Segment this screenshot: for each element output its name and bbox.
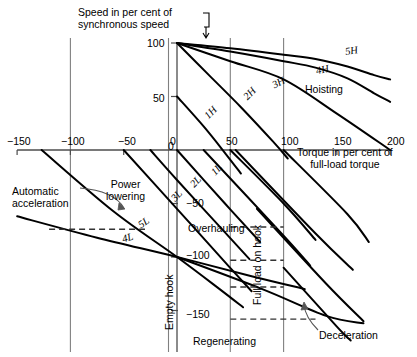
speed-torque-diagram: Speed in per cent of synchronous speed T… [0, 0, 417, 357]
annotation-hoisting: Hoisting [305, 83, 343, 95]
y-tick-label-50: 50 [153, 92, 165, 104]
x-tick-label-neg100: −100 [61, 135, 85, 147]
annotation-automatic-acceleration-line2: acceleration [12, 197, 69, 209]
y-axis-title: Speed in per cent of synchronous speed [78, 6, 172, 30]
annotation-automatic-acceleration: Automatic acceleration [12, 185, 69, 209]
x-axis-title-line1: Torque in per cent of [297, 146, 393, 158]
annotation-regenerating: Regenerating [193, 335, 256, 347]
curve-label-5H: 5H [344, 44, 358, 57]
y-axis-title-line2: synchronous speed [78, 18, 169, 30]
y-tick-label-100: 100 [147, 37, 165, 49]
x-tick-label-150: 150 [334, 135, 352, 147]
annotation-deceleration: Deceleration [319, 329, 378, 341]
annotation-overhauling: Overhauling [188, 222, 245, 234]
y-tick-label-0: 0 [168, 140, 174, 152]
x-tick-label-100: 100 [281, 135, 299, 147]
x-tick-label-neg50: −50 [118, 135, 136, 147]
annotation-power-lowering-line1: Power [111, 178, 141, 190]
x-tick-label-neg150: −150 [7, 135, 31, 147]
y-tick-label-neg50: −50 [186, 197, 204, 209]
annotation-empty-hook: Empty hook [163, 275, 175, 330]
y-tick-label-neg150: −150 [186, 308, 210, 320]
y-axis-title-line1: Speed in per cent of [78, 6, 172, 18]
y-tick-label-neg100: −100 [186, 249, 210, 261]
y-title-arrow-icon [203, 27, 209, 38]
annotation-power-lowering-line2: lowering [106, 190, 145, 202]
y-title-bracket [203, 13, 209, 27]
x-axis-title: Torque in per cent of full-load torque [297, 146, 393, 170]
annotation-automatic-acceleration-line1: Automatic [12, 185, 59, 197]
x-tick-label-50: 50 [226, 135, 238, 147]
annotation-power-lowering: Power lowering [106, 178, 145, 202]
x-axis-title-line2: full-load torque [310, 158, 379, 170]
x-tick-label-200: 200 [387, 135, 405, 147]
annotation-full-load-on-hook: Full load on hook [251, 225, 263, 305]
